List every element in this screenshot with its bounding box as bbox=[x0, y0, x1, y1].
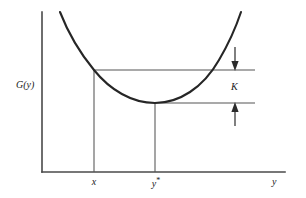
x-tick-label-x: x bbox=[88, 177, 100, 187]
x-axis-label: y bbox=[272, 177, 276, 187]
x-tick-star-glyph: * bbox=[156, 176, 160, 185]
x-tick-label-x-text: x bbox=[92, 176, 96, 187]
gap-label-k: K bbox=[231, 82, 238, 92]
gap-arrow-up bbox=[231, 102, 238, 126]
x-tick-label-y-star: y* bbox=[148, 177, 164, 189]
convex-curve-g bbox=[60, 12, 241, 103]
gap-arrow-down bbox=[231, 47, 238, 71]
plot-canvas bbox=[0, 0, 306, 198]
y-axis-label: G(y) bbox=[16, 80, 34, 90]
figure-container: G(y) y x y* K bbox=[0, 0, 306, 198]
